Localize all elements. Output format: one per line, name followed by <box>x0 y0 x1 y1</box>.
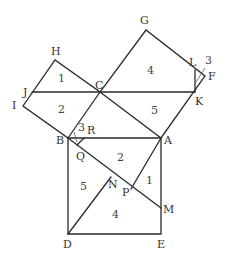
line-bm <box>68 138 161 208</box>
region-4-top: 4 <box>147 64 154 77</box>
tick-br <box>74 132 77 142</box>
region-3-bottom: 3 <box>78 121 85 134</box>
region-1-top: 1 <box>58 72 65 85</box>
line-rq <box>77 138 84 145</box>
label-q: Q <box>76 150 85 163</box>
label-i: I <box>12 99 16 112</box>
pythagorean-diagram: G H J I C L F K B A R Q N P M D E 1 2 4 … <box>0 0 230 265</box>
label-n: N <box>108 178 118 191</box>
label-h: H <box>51 45 61 58</box>
label-f: F <box>208 70 216 83</box>
label-k: K <box>195 95 204 108</box>
label-m: M <box>163 203 174 216</box>
label-c: C <box>95 79 103 92</box>
region-2-bottom: 2 <box>117 151 124 164</box>
square-ca <box>100 30 205 138</box>
region-5-right: 5 <box>151 104 158 117</box>
label-j: J <box>22 86 27 99</box>
region-4-bottom: 4 <box>112 208 119 221</box>
label-a: A <box>163 134 173 147</box>
label-e: E <box>157 238 165 251</box>
label-g: G <box>140 14 149 27</box>
region-5-bottom: 5 <box>80 180 87 193</box>
label-p: P <box>122 186 130 199</box>
label-b: B <box>56 134 64 147</box>
label-r: R <box>87 124 96 137</box>
line-dn <box>68 177 111 234</box>
region-1-bottom: 1 <box>146 174 153 187</box>
label-d: D <box>63 238 72 251</box>
label-l: L <box>189 56 197 69</box>
region-2-left: 2 <box>58 103 65 116</box>
region-3-top: 3 <box>205 54 212 67</box>
